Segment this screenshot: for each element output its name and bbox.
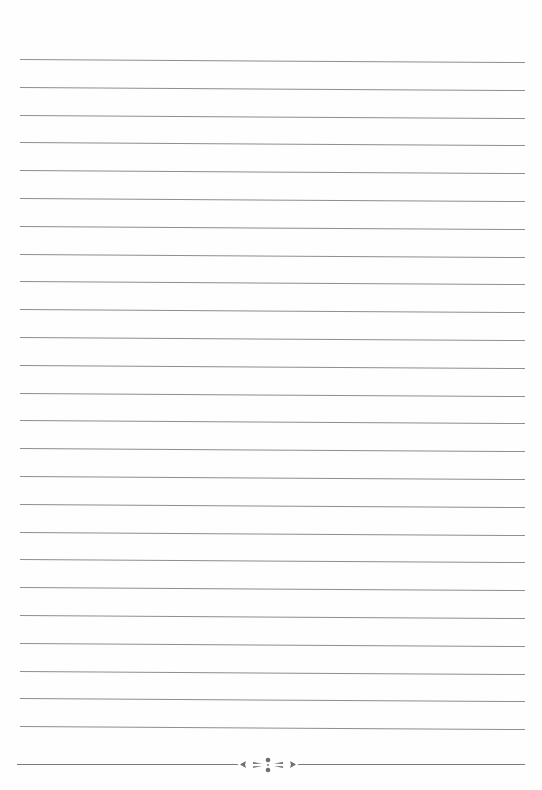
ruled-line	[20, 393, 525, 397]
ruled-line	[20, 532, 525, 536]
ruled-line	[20, 87, 525, 91]
ruled-line	[20, 59, 525, 63]
lined-page	[0, 0, 542, 790]
ruled-line	[20, 504, 525, 508]
ruled-line	[20, 698, 525, 702]
ruled-line	[20, 198, 525, 202]
ruled-line	[20, 671, 525, 675]
ruled-line	[20, 420, 525, 424]
ruled-line	[20, 254, 525, 258]
ruled-line	[20, 142, 525, 146]
ruled-line	[20, 559, 525, 563]
ruled-line	[20, 726, 525, 730]
footer-rule-left	[17, 764, 238, 765]
ruled-line	[20, 587, 525, 591]
ruled-line	[20, 337, 525, 341]
ruled-line	[20, 170, 525, 174]
ruled-line	[20, 281, 525, 285]
ruled-line	[20, 226, 525, 230]
ruled-line	[20, 615, 525, 619]
ruled-line	[20, 448, 525, 452]
ruled-line	[20, 365, 525, 369]
footer-divider	[17, 756, 525, 774]
floral-divider-icon	[238, 756, 298, 774]
ruled-line	[20, 115, 525, 119]
footer-rule-right	[298, 764, 525, 765]
ruled-line	[20, 309, 525, 313]
ruled-line	[20, 643, 525, 647]
ruled-line	[20, 476, 525, 480]
